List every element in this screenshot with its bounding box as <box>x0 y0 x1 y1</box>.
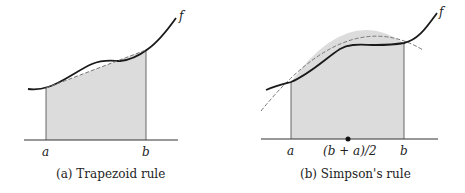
panel-simpson: f a (b + a)/2 b (b) Simpson's rule <box>261 5 446 181</box>
caption-a: (a) Trapezoid rule <box>56 167 165 181</box>
label-b: b <box>400 144 408 158</box>
label-a: a <box>287 144 294 158</box>
midpoint-dot <box>346 137 351 142</box>
label-midpoint: (b + a)/2 <box>323 144 377 158</box>
caption-b: (b) Simpson's rule <box>300 167 411 181</box>
panel-trapezoid: f a b (a) Trapezoid rule <box>24 9 186 181</box>
label-a: a <box>42 145 49 159</box>
label-b: b <box>142 145 150 159</box>
label-f: f <box>438 5 446 19</box>
label-f: f <box>178 9 186 23</box>
figure: f a b (a) Trapezoid rule f a (b + a)/2 b… <box>0 0 465 193</box>
